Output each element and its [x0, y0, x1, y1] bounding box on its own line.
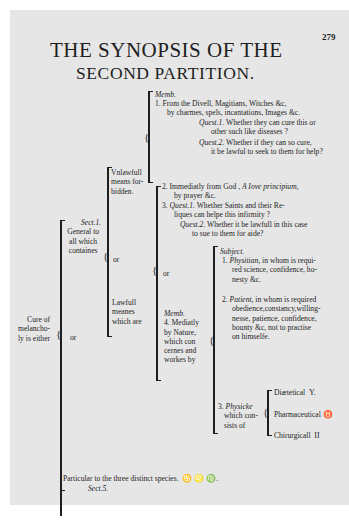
physick-entry: 3. Physicke which con- sists of — [218, 402, 258, 430]
book-page: 279 THE SYNOPSIS OF THE SECOND PARTITION… — [10, 10, 349, 505]
physitian-entry: 1. Physitian, in whom is requi- red scie… — [222, 256, 317, 284]
mediately-bracket-cap-top — [213, 246, 218, 247]
root-bracket-cap-bottom — [60, 490, 65, 491]
unlawful-question-2: Quest.2. Whether if they can so cure, it… — [199, 138, 323, 157]
unlawful-bracket-cap-top — [148, 91, 153, 92]
general-label: Sect.1. General to all which containes — [65, 218, 101, 255]
lawful-bracket-cap-top — [156, 186, 161, 187]
mediately-bracket-cap-bottom — [213, 433, 218, 434]
physick-brace-point: { — [263, 407, 268, 418]
subject-tag: Subject. — [220, 247, 244, 256]
unlawful-question-1: Quest.1. Whether they can cure this or o… — [199, 118, 316, 137]
title-line-1: THE SYNOPSIS OF THE — [50, 40, 283, 61]
mediately-brace-point: { — [209, 335, 214, 346]
lawful-item-2: 2. Immediatly from God , A Iove principi… — [162, 182, 299, 201]
unlawful-item-1: 1. From the Divell, Magitians, Witches &… — [155, 99, 300, 118]
root-label: Cure of melancho- ly is either — [18, 315, 50, 343]
page-number: 279 — [322, 33, 336, 42]
lawful-item-3-question-2: Quest.2. Whether it be lawfull in this c… — [180, 220, 307, 239]
root-bracket — [60, 220, 62, 516]
unlawful-bracket-cap-bottom — [148, 182, 153, 183]
lawful-item-3: 3. Quest.1. Whether Saints and their Re-… — [162, 201, 285, 220]
physick-kind-chirurgicall: Chirurgicall II — [274, 431, 320, 440]
mediately-label: Memb. 4. Mediatly by Nature, which con c… — [164, 309, 199, 365]
lawful-bracket — [156, 186, 158, 381]
physick-bracket-cap-top — [267, 390, 272, 391]
physick-kind-pharmaceutical: Pharmaceutical ♉ — [274, 410, 333, 419]
lawful-connector: or — [163, 269, 169, 278]
physick-bracket-cap-bottom — [267, 435, 272, 436]
particular-section-tag: Sect.5. — [88, 484, 108, 493]
unlawful-brace-point: { — [144, 132, 149, 143]
particular-entry: Particular to the three distinct species… — [63, 474, 218, 483]
unlawful-label: Vnlawfull means for- bidden. — [111, 168, 144, 196]
lawful-bracket-cap-bottom — [156, 380, 161, 381]
root-connector: or — [70, 333, 76, 342]
unlawful-member-tag: Memb. — [155, 90, 176, 99]
general-brace-point: { — [103, 251, 108, 262]
physick-kind-diaetetical: Diætetical Y. — [274, 388, 316, 397]
title-line-2: SECOND PARTITION. — [76, 65, 255, 83]
lawful-label: Lawfull meanes which are — [112, 298, 142, 326]
patient-entry: 2. Patient, in whom is required obedienc… — [222, 295, 321, 341]
root-brace-point: { — [56, 329, 61, 340]
lawful-brace-point: { — [152, 265, 157, 276]
general-bracket-cap-bottom — [107, 336, 112, 337]
general-connector: or — [113, 255, 119, 264]
